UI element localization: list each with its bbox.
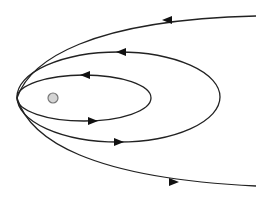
inner-ellipse-path: [17, 75, 151, 121]
middle-ellipse: [17, 48, 220, 146]
orbit-diagram: [0, 0, 272, 198]
middle-ellipse-direction-arrow-icon: [116, 48, 126, 56]
middle-ellipse-direction-arrow-icon: [114, 138, 124, 146]
inner-ellipse-direction-arrow-icon: [80, 71, 90, 79]
inner-ellipse: [17, 71, 151, 125]
upper-escape-trajectory: [17, 16, 256, 98]
upper-escape-trajectory-path: [17, 16, 256, 98]
orbit-diagram-canvas: [0, 0, 272, 198]
central-body: [48, 93, 58, 103]
inner-ellipse-direction-arrow-icon: [88, 117, 98, 125]
middle-ellipse-path: [17, 52, 220, 142]
